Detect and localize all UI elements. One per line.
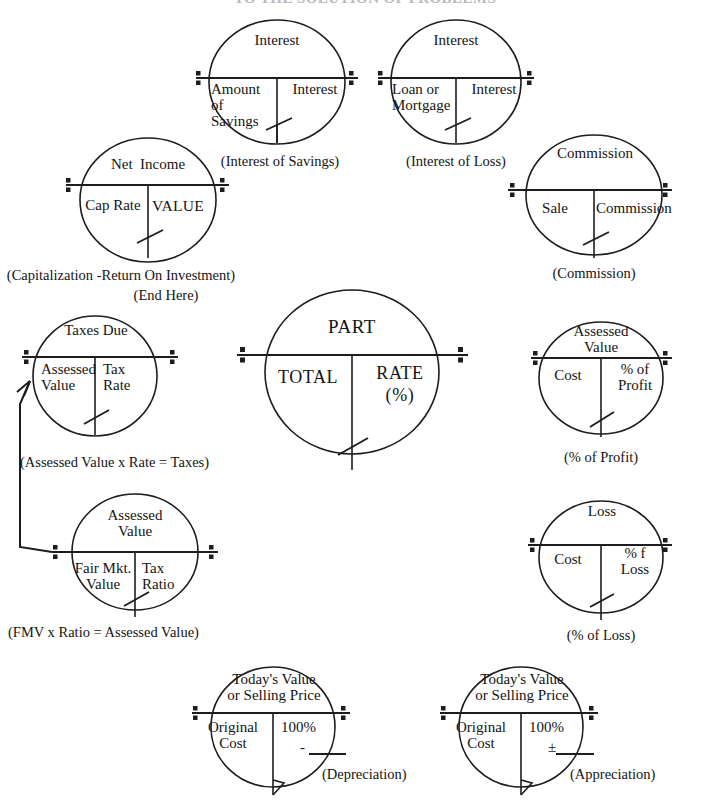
denominator-left-percent-of-loss: Cost	[539, 552, 597, 568]
caption-commission: (Commission)	[534, 266, 654, 281]
denominator-right-appreciation: 100%	[529, 720, 589, 736]
sign-depreciation: -	[300, 740, 322, 756]
numerator-loss: Loss	[565, 504, 639, 520]
denominator-right-percent-of-profit: % of Profit	[606, 362, 664, 394]
numerator-capitalization: Net Income	[88, 157, 208, 173]
denominator-left-assessed-value: Fair Mkt. Value	[72, 561, 134, 593]
numerator-depreciation: Today's Value or Selling Price	[203, 672, 345, 704]
denominator-left-percent-of-profit: Cost	[539, 368, 597, 384]
denominator-right-assessed-value: Tax Ratio	[142, 561, 200, 593]
denominator-left-interest-of-savings: Amount of Savings	[211, 82, 287, 130]
denominator-right-taxes-due: Tax Rate	[103, 362, 157, 394]
diagram-vectors	[0, 0, 718, 807]
denominator-left-capitalization: Cap Rate	[78, 198, 148, 214]
numerator-interest-of-savings: Interest	[217, 33, 337, 49]
denominator-right-interest-of-loss: Interest	[461, 82, 527, 98]
sign-appreciation: ±	[548, 740, 570, 756]
diagram-canvas: TO THE SOLUTION OF PROBLEMS Interest Amo…	[0, 0, 718, 807]
caption-assessed-value: (FMV x Ratio = Assessed Value)	[8, 625, 238, 640]
caption-appreciation: (Appreciation)	[570, 767, 690, 782]
denominator-total: TOTAL	[267, 368, 349, 387]
numerator-interest-of-loss: Interest	[396, 33, 516, 49]
denominator-rate: RATE	[362, 364, 438, 383]
caption-percent-of-loss: (% of Loss)	[551, 628, 651, 643]
denominator-left-commission: Sale	[522, 201, 588, 217]
denominator-right-depreciation: 100%	[281, 720, 341, 736]
page-title-faint: TO THE SOLUTION OF PROBLEMS	[175, 0, 555, 7]
denominator-right-capitalization: VALUE	[152, 198, 222, 214]
numerator-assessed-value: Assessed Value	[85, 508, 185, 540]
caption-depreciation: (Depreciation)	[322, 767, 442, 782]
denominator-left-interest-of-loss: Loan or Mortgage	[392, 82, 462, 114]
numerator-part: PART	[302, 317, 402, 337]
caption-interest-of-savings: (Interest of Savings)	[205, 154, 355, 169]
caption-taxes-due: (Assessed Value x Rate = Taxes)	[20, 455, 240, 470]
numerator-appreciation: Today's Value or Selling Price	[451, 672, 593, 704]
numerator-profit: Assessed Value	[561, 324, 641, 356]
denominator-rate-percent: (%)	[362, 386, 438, 405]
denominator-left-taxes-due: Assessed Value	[41, 362, 103, 394]
denominator-left-appreciation: Original Cost	[447, 720, 515, 752]
denominator-right-interest-of-savings: Interest	[282, 82, 348, 98]
denominator-right-percent-of-loss: % f Loss	[606, 546, 664, 578]
caption-capitalization: (Capitalization -Return On Investment)	[6, 268, 236, 283]
numerator-commission: Commission	[532, 146, 658, 162]
caption-interest-of-loss: (Interest of Loss)	[389, 154, 523, 169]
denominator-left-depreciation: Original Cost	[199, 720, 267, 752]
caption-capitalization-end-here: (End Here)	[96, 288, 236, 303]
caption-percent-of-profit: (% of Profit)	[551, 450, 651, 465]
denominator-right-commission: Commission	[596, 201, 682, 217]
numerator-taxes-due: Taxes Due	[46, 323, 146, 339]
